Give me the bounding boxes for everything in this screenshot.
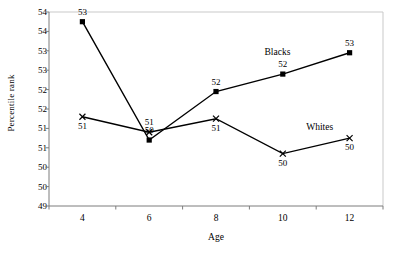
data-point-label: 52 <box>272 60 294 69</box>
data-point-label: 50 <box>339 143 361 152</box>
data-point-label: 53 <box>339 39 361 48</box>
data-point-label: 52 <box>205 78 227 87</box>
x-axis-title: Age <box>49 232 383 242</box>
data-point-label: 51 <box>138 118 160 127</box>
marker-square <box>147 137 152 142</box>
x-axis-tick-label: 12 <box>335 213 365 223</box>
marker-square <box>347 50 352 55</box>
line-chart-figure: Percentile rank 4950505151525253535454 4… <box>0 0 398 257</box>
x-axis-tick-label: 10 <box>268 213 298 223</box>
data-point-label: 50 <box>272 159 294 168</box>
data-point-label: 51 <box>205 124 227 133</box>
data-point-label: 53 <box>71 8 93 17</box>
x-axis-tick-label: 4 <box>67 213 97 223</box>
x-axis-tick-label: 8 <box>201 213 231 223</box>
series-annotation-whites: Whites <box>306 122 333 132</box>
data-point-label: 50 <box>138 126 160 135</box>
x-axis-title-text: Age <box>208 232 224 242</box>
marker-square <box>80 19 85 24</box>
marker-square <box>280 71 285 76</box>
x-axis-tick-label: 6 <box>134 213 164 223</box>
marker-square <box>213 89 218 94</box>
series-annotation-blacks: Blacks <box>264 47 290 57</box>
data-point-label: 51 <box>71 122 93 131</box>
